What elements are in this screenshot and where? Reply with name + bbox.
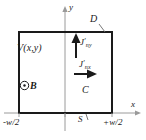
x-axis-arrowhead	[135, 110, 141, 115]
potential-label: V(x,y)	[17, 43, 42, 53]
current-density-x-arrow	[74, 70, 97, 79]
magnetic-field-label: B	[30, 81, 37, 91]
current-density-x-label: J′nx	[79, 60, 91, 70]
diagram-canvas	[0, 0, 146, 140]
s-leader-line	[86, 114, 88, 120]
region-label-C: C	[82, 85, 89, 95]
boundary-label-D: D	[90, 14, 97, 24]
current-x-subscript: nx	[85, 64, 91, 70]
magnetic-field-out-of-page-icon	[20, 81, 28, 89]
x-axis-tick-label-s: S	[78, 115, 83, 124]
x-axis-tick-label-left: -w/2	[3, 118, 19, 127]
hall-effect-diagram: V(x,y) ⊙ B D C S x y -w/2 +w/2 J′ny J′nx	[0, 0, 146, 140]
x-axis-tick-label-right: +w/2	[103, 118, 122, 127]
current-density-y-label: J′ny	[80, 38, 92, 48]
boundary-leader-line	[99, 24, 105, 32]
y-axis-arrowhead	[62, 6, 67, 12]
current-y-subscript: ny	[86, 42, 92, 48]
x-axis-label: x	[131, 100, 135, 109]
current-x-arrowhead	[87, 70, 97, 79]
y-axis-label: y	[69, 3, 73, 12]
